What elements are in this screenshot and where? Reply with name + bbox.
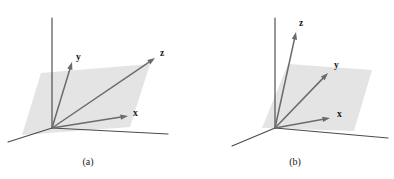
figure-container: y z x (a) z bbox=[0, 0, 394, 179]
panel-b: z y x (b) bbox=[232, 18, 388, 168]
panel-a-label-z: z bbox=[160, 48, 165, 58]
panel-b-label-x: x bbox=[337, 109, 342, 119]
panel-a-vector-y-arrowhead bbox=[67, 62, 72, 70]
panel-a-label-y: y bbox=[76, 52, 81, 62]
panel-b-vector-z-arrowhead bbox=[292, 32, 297, 40]
panel-a: y z x (a) bbox=[8, 18, 168, 168]
panel-b-label-y: y bbox=[334, 60, 339, 70]
panel-b-label-z: z bbox=[299, 18, 304, 28]
panel-b-caption: (b) bbox=[289, 156, 301, 168]
panel-a-caption: (a) bbox=[82, 156, 93, 168]
panel-b-ground-line-left bbox=[232, 128, 275, 146]
panel-a-label-x: x bbox=[133, 108, 138, 118]
coordinate-systems-figure: y z x (a) z bbox=[0, 0, 394, 179]
panel-a-vector-z-arrowhead bbox=[147, 58, 155, 64]
